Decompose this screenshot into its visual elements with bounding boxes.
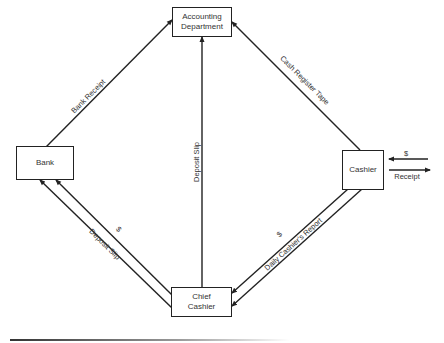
node-chief-cashier: Chief Cashier	[171, 287, 232, 317]
label-receipt-out: Receipt	[394, 172, 420, 181]
arrow-bank-to-accounting	[46, 20, 172, 147]
node-chief-line1: Chief	[188, 292, 216, 302]
node-bank: Bank	[16, 146, 74, 180]
node-accounting-line1: Accounting	[181, 12, 223, 22]
label-deposit-slip-vertical: Deposit Slip	[192, 142, 201, 182]
label-bank-receipt: Bank Receipt	[69, 77, 108, 116]
node-cashier-label: Cashier	[349, 165, 377, 175]
label-dollar-in: $	[404, 149, 409, 158]
arrow-chief-to-bank-dollar	[56, 180, 172, 295]
label-dollar-bank: $	[114, 225, 124, 235]
label-daily-cashiers-report: Daily Cashier's Report	[263, 215, 325, 272]
node-bank-label: Bank	[36, 158, 54, 168]
node-chief-line2: Cashier	[188, 302, 216, 312]
label-dollar-chief: $	[275, 229, 285, 239]
node-accounting-line2: Department	[181, 22, 223, 32]
arrow-cashier-to-chief-report	[232, 189, 362, 306]
node-accounting-department: Accounting Department	[172, 7, 232, 37]
node-cashier: Cashier	[342, 150, 384, 190]
label-cash-register-tape: Cash Register Tape	[278, 54, 331, 107]
arrow-cashier-to-accounting	[232, 22, 360, 150]
bottom-rule	[10, 339, 290, 341]
